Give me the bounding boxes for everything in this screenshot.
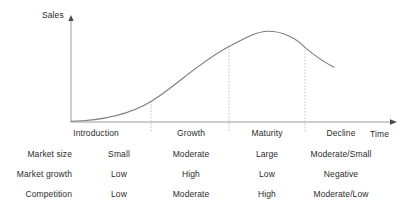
cell-market-size-decline: Moderate/Small <box>293 149 389 159</box>
stage-label-decline: Decline <box>293 128 389 138</box>
y-axis <box>68 15 73 122</box>
table-row: Market growth Low High Low Negative <box>0 167 417 187</box>
stage-dividers <box>151 46 305 132</box>
table-row: Competition Low Moderate High Moderate/L… <box>0 187 417 207</box>
product-life-cycle-diagram: Sales Time Introduction Growth Maturity … <box>0 0 417 213</box>
row-label-market-size: Market size <box>27 149 72 159</box>
stage-label-row: Introduction Growth Maturity Decline <box>71 128 367 140</box>
cell-competition-decline: Moderate/Low <box>293 189 389 199</box>
stage-label-introduction: Introduction <box>48 128 144 138</box>
row-label-market-growth: Market growth <box>17 169 72 179</box>
attribute-table: Market size Small Moderate Large Moderat… <box>0 147 417 207</box>
x-axis <box>71 119 397 124</box>
life-cycle-curve <box>71 31 334 121</box>
cell-market-growth-decline: Negative <box>293 169 389 179</box>
y-axis-label: Sales <box>42 10 64 20</box>
table-row: Market size Small Moderate Large Moderat… <box>0 147 417 167</box>
row-label-competition: Competition <box>26 189 72 199</box>
